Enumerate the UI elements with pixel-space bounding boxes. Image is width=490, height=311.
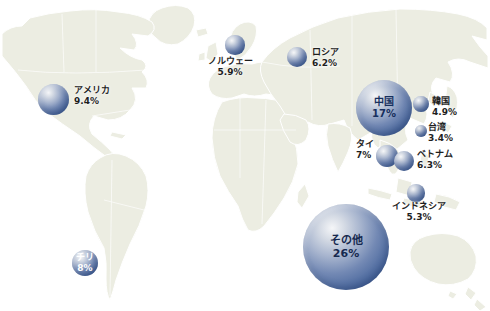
bubble-label-taiwan: 台湾3.4% (428, 122, 453, 144)
bubble-russia (287, 47, 307, 67)
bubble-label-korea: 韓国4.9% (432, 96, 457, 118)
country-name: ノルウェー (208, 56, 253, 67)
country-name: チリ (76, 252, 94, 263)
bubble-indonesia (407, 184, 424, 201)
country-value: 4.9% (432, 107, 457, 118)
bubble-map-chart: アメリカ9.4%チリ8%ノルウェー5.9%ロシア6.2%中国17%韓国4.9%台… (0, 0, 490, 311)
bubble-label-norway: ノルウェー5.9% (208, 56, 253, 78)
bubble-label-chile: チリ8% (76, 252, 94, 274)
bubble-label-indonesia: インドネシア5.3% (392, 201, 446, 223)
country-name: その他 (330, 234, 363, 247)
country-name: タイ (356, 139, 374, 150)
bubble-label-russia: ロシア6.2% (312, 47, 339, 69)
bubble-usa (38, 84, 69, 115)
bubble-taiwan (415, 125, 427, 137)
bubble-label-usa: アメリカ9.4% (74, 85, 110, 107)
country-name: 中国 (372, 96, 396, 108)
country-name: アメリカ (74, 85, 110, 96)
bubble-korea (413, 96, 429, 112)
country-value: 8% (76, 263, 94, 274)
bubble-label-vietnam: ベトナム6.3% (417, 149, 453, 171)
country-value: 6.2% (312, 58, 339, 69)
bubble-label-china: 中国17% (372, 96, 396, 120)
bubble-vietnam (394, 151, 414, 171)
country-value: 6.3% (417, 160, 453, 171)
country-name: インドネシア (392, 201, 446, 212)
bubble-layer: アメリカ9.4%チリ8%ノルウェー5.9%ロシア6.2%中国17%韓国4.9%台… (0, 0, 490, 311)
bubble-label-others: その他26% (330, 234, 363, 261)
bubble-norway (225, 35, 244, 54)
country-value: 5.9% (208, 67, 253, 78)
country-name: ロシア (312, 47, 339, 58)
country-value: 17% (372, 108, 396, 120)
country-value: 5.3% (392, 212, 446, 223)
country-value: 26% (330, 247, 363, 260)
country-value: 3.4% (428, 133, 453, 144)
country-name: ベトナム (417, 149, 453, 160)
country-value: 7% (356, 150, 374, 161)
country-value: 9.4% (74, 96, 110, 107)
country-name: 韓国 (432, 96, 457, 107)
country-name: 台湾 (428, 122, 453, 133)
bubble-label-thailand: タイ7% (356, 139, 374, 161)
